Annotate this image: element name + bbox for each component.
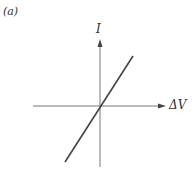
- x-axis-arrow-icon: [158, 104, 166, 109]
- y-axis-label: I: [96, 22, 101, 36]
- x-axis-label: ΔV: [169, 98, 186, 112]
- iv-line: [65, 56, 133, 162]
- y-axis-arrow-icon: [98, 39, 103, 47]
